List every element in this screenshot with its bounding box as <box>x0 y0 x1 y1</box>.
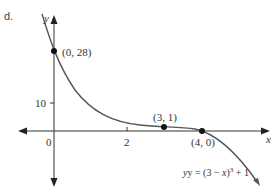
origin-label: 0 <box>46 136 52 148</box>
point-3-1 <box>161 124 167 130</box>
x-axis-left-arrow-icon <box>18 128 27 135</box>
function-curve <box>42 14 258 183</box>
x-tick-label-2: 2 <box>124 136 130 148</box>
point-label-3-1: (3, 1) <box>153 111 177 124</box>
equation-label: yy = (3 − x)3 + 1 <box>182 166 249 179</box>
x-axis-label: x <box>265 133 271 145</box>
y-tick-label-10: 10 <box>35 97 47 109</box>
x-axis <box>18 128 270 135</box>
y-axis-label: y <box>43 12 49 24</box>
point-label-0-28: (0, 28) <box>62 46 92 59</box>
y-axis <box>51 15 58 187</box>
cubic-function-graph: y x 0 2 10 (0, 28) (3, 1) (4, 0) yy = (3… <box>0 0 279 190</box>
point-label-4-0: (4, 0) <box>191 136 215 149</box>
point-4-0 <box>199 128 205 134</box>
y-axis-up-arrow-icon <box>51 15 58 24</box>
curve-end-arrow-icon <box>253 178 260 186</box>
point-0-28 <box>51 48 57 54</box>
y-axis-down-arrow-icon <box>51 178 58 187</box>
